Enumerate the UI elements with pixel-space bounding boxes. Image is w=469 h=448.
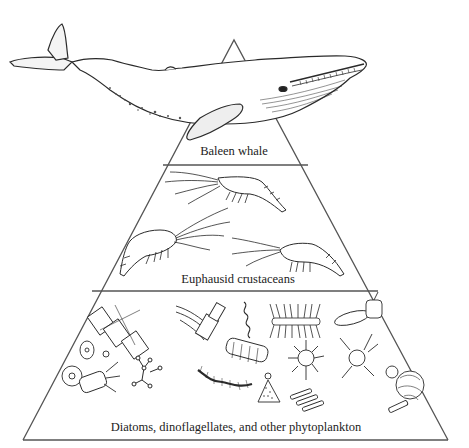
food-pyramid-diagram: Baleen whale Euphausid crustaceans Diato… [0,0,469,448]
tier-label-euphausid-crustaceans: Euphausid crustaceans [181,272,295,287]
krill-right [232,238,344,276]
krill-icon [120,172,344,276]
whale-icon [10,24,366,140]
tier-label-baleen-whale: Baleen whale [200,144,268,159]
krill-left [120,208,230,276]
phytoplankton-icon [62,292,424,413]
krill-top [165,172,286,212]
tier-label-phytoplankton: Diatoms, dinoflagellates, and other phyt… [111,420,362,435]
